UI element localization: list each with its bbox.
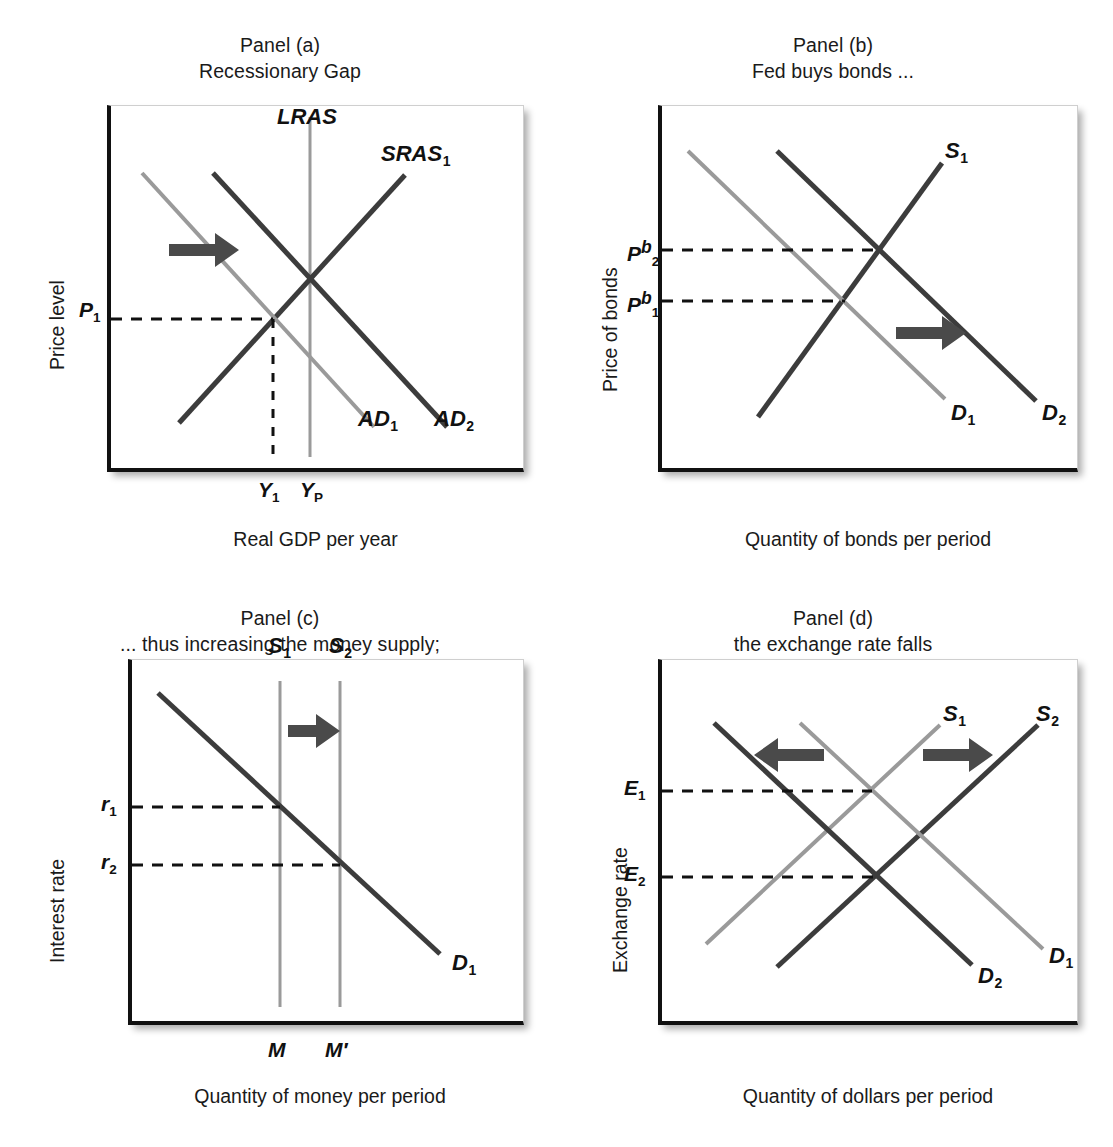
label-sras1-text: SRAS xyxy=(381,141,442,166)
label-ad2-text: AD xyxy=(434,406,466,431)
panel-a: Panel (a) Recessionary Gap Price level L… xyxy=(0,0,560,573)
tick-e1: E1 xyxy=(624,776,646,803)
label-d1-sub: 1 xyxy=(1065,955,1073,971)
shift-arrow-right xyxy=(923,738,993,772)
label-ad1-text: AD xyxy=(358,406,390,431)
label-d1-text: D xyxy=(452,950,468,975)
tick-y1: Y1 xyxy=(258,478,280,505)
label-d1: D1 xyxy=(1049,943,1073,971)
tick-m-prime: M′ xyxy=(325,1038,348,1062)
tick-p1b: Pb1 xyxy=(627,288,659,320)
label-sras1-sub: 1 xyxy=(443,153,451,169)
label-s1-text: S xyxy=(943,701,958,726)
panel-b-y-axis-label: Price of bonds xyxy=(599,267,622,392)
panel-b-title-line1: Panel (b) xyxy=(553,32,1113,58)
tick-p1b-sup: b xyxy=(641,288,652,308)
label-s2: S2 xyxy=(329,633,352,661)
tick-p2b-sub: 2 xyxy=(652,254,660,269)
panel-d-title-line2: the exchange rate falls xyxy=(553,631,1113,657)
tick-yp: YP xyxy=(300,478,323,505)
label-lras-text: LRAS xyxy=(277,104,337,129)
label-lras: LRAS xyxy=(277,104,337,130)
panel-d: Panel (d) the exchange rate falls Exchan… xyxy=(553,573,1113,1147)
tick-m: M xyxy=(268,1038,286,1062)
label-d1-text: D xyxy=(951,400,967,425)
tick-p2b-sup: b xyxy=(641,237,652,257)
panel-b-curves xyxy=(658,105,1082,477)
label-s1-text: S xyxy=(268,633,283,658)
tick-yp-text: Y xyxy=(300,478,314,501)
tick-y1-sub: 1 xyxy=(272,490,280,505)
curve-s1 xyxy=(758,163,942,417)
label-ad2-sub: 2 xyxy=(466,418,474,434)
panel-c-y-axis-label: Interest rate xyxy=(46,859,69,963)
tick-e1-text: E xyxy=(624,776,638,799)
panel-a-title-line2: Recessionary Gap xyxy=(0,58,560,84)
tick-p1-sub: 1 xyxy=(93,310,101,325)
label-s2-sub: 2 xyxy=(344,645,352,661)
label-s1: S1 xyxy=(943,701,966,729)
panel-c: Panel (c) ... thus increasing the money … xyxy=(0,573,560,1147)
curve-sras1 xyxy=(179,175,405,423)
label-s2: S2 xyxy=(1036,701,1059,729)
tick-e2: E2 xyxy=(624,862,646,889)
label-s2-text: S xyxy=(1036,701,1051,726)
tick-y1-text: Y xyxy=(258,478,272,501)
label-ad1: AD1 xyxy=(358,406,398,434)
tick-r1-sub: 1 xyxy=(109,804,117,819)
label-s1: S1 xyxy=(945,138,968,166)
panel-a-y-axis-label: Price level xyxy=(46,280,69,370)
panel-d-x-axis-label: Quantity of dollars per period xyxy=(658,1085,1078,1108)
tick-p1b-text: P xyxy=(627,293,641,316)
tick-yp-sub: P xyxy=(314,490,323,505)
label-ad2: AD2 xyxy=(434,406,474,434)
label-d2-text: D xyxy=(978,963,994,988)
panel-b-plot-box xyxy=(658,105,1078,472)
panel-c-x-axis-label: Quantity of money per period xyxy=(80,1085,560,1108)
tick-p2b-text: P xyxy=(627,242,641,265)
panel-a-title-line1: Panel (a) xyxy=(0,32,560,58)
tick-e2-sub: 2 xyxy=(638,874,646,889)
label-d2: D2 xyxy=(1042,400,1066,428)
curve-s2 xyxy=(777,725,1038,967)
label-s1-sub: 1 xyxy=(958,713,966,729)
panel-a-x-axis-label: Real GDP per year xyxy=(107,528,524,551)
tick-e1-sub: 1 xyxy=(638,788,646,803)
curve-ad2 xyxy=(213,173,447,427)
panel-b: Panel (b) Fed buys bonds ... Price of bo… xyxy=(553,0,1113,573)
tick-r2-sub: 2 xyxy=(109,862,117,877)
label-s1-sub: 1 xyxy=(283,645,291,661)
panel-d-title-line1: Panel (d) xyxy=(553,605,1113,631)
label-d2-sub: 2 xyxy=(1058,412,1066,428)
panel-a-title: Panel (a) Recessionary Gap xyxy=(0,32,560,84)
label-d2: D2 xyxy=(978,963,1002,991)
label-d2-sub: 2 xyxy=(994,975,1002,991)
label-s1-sub: 1 xyxy=(960,150,968,166)
shift-arrow-right xyxy=(288,714,340,748)
tick-r2-text: r xyxy=(101,850,109,873)
label-s1-text: S xyxy=(945,138,960,163)
panel-d-curves xyxy=(658,659,1082,1030)
panel-c-title-line1: Panel (c) xyxy=(0,605,560,631)
label-s2-text: S xyxy=(329,633,344,658)
label-d2-text: D xyxy=(1042,400,1058,425)
label-d1-sub: 1 xyxy=(468,962,476,978)
label-d1: D1 xyxy=(951,400,975,428)
curve-ad1 xyxy=(142,173,374,427)
label-ad1-sub: 1 xyxy=(390,418,398,434)
label-s1: S1 xyxy=(268,633,291,661)
panel-b-title: Panel (b) Fed buys bonds ... xyxy=(553,32,1113,84)
label-d1: D1 xyxy=(452,950,476,978)
tick-p1: P1 xyxy=(79,298,101,325)
panel-d-plot-box xyxy=(658,659,1078,1025)
shift-arrow-left xyxy=(754,738,824,772)
panel-b-x-axis-label: Quantity of bonds per period xyxy=(658,528,1078,551)
label-s2-sub: 2 xyxy=(1051,713,1059,729)
tick-p1-text: P xyxy=(79,298,93,321)
label-d1-sub: 1 xyxy=(967,412,975,428)
panel-d-title: Panel (d) the exchange rate falls xyxy=(553,605,1113,657)
tick-p1b-sub: 1 xyxy=(652,305,660,320)
label-d1-text: D xyxy=(1049,943,1065,968)
panel-b-title-line2: Fed buys bonds ... xyxy=(553,58,1113,84)
tick-e2-text: E xyxy=(624,862,638,885)
